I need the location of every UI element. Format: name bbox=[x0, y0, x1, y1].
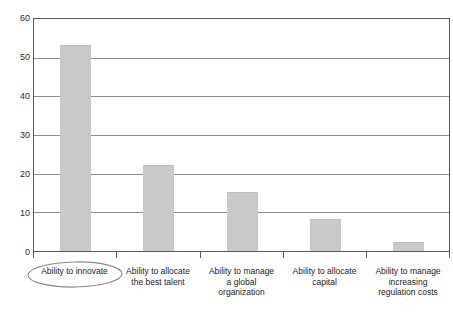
x-axis-label-line: increasing bbox=[366, 277, 450, 288]
x-axis-label-line: the best talent bbox=[116, 277, 200, 288]
x-axis-label-line: regulation costs bbox=[366, 287, 450, 298]
x-axis-label-ability-to-innovate: Ability to innovate bbox=[33, 266, 116, 277]
x-axis-label-line: Ability to allocate bbox=[283, 266, 366, 277]
x-axis-label-line: a global bbox=[200, 277, 283, 288]
x-axis-label-ability-to-allocate-capital: Ability to allocate capital bbox=[283, 266, 366, 287]
x-axis-label-ability-to-manage-increasing-regulation-costs: Ability to manage increasing regulation … bbox=[366, 266, 450, 298]
x-axis-label-line: organization bbox=[200, 287, 283, 298]
x-axis-label-line: Ability to manage bbox=[200, 266, 283, 277]
x-axis-label-ability-to-allocate-the-best-talent: Ability to allocate the best talent bbox=[116, 266, 200, 287]
x-axis-label-line: Ability to innovate bbox=[33, 266, 116, 277]
x-axis-label-line: capital bbox=[283, 277, 366, 288]
x-axis-label-ability-to-manage-a-global-organization: Ability to manage a global organization bbox=[200, 266, 283, 298]
x-axis-label-line: Ability to manage bbox=[366, 266, 450, 277]
bar-chart: 60 50 40 30 20 10 0 Ability to innovate … bbox=[0, 0, 453, 322]
x-axis: Ability to innovate Ability to allocate … bbox=[0, 0, 453, 322]
x-axis-label-line: Ability to allocate bbox=[116, 266, 200, 277]
